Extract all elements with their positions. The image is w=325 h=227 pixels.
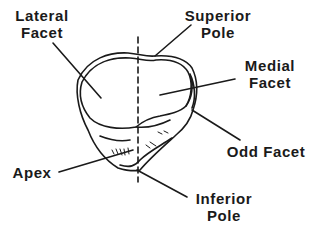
- label-lateral-facet: Lateral Facet: [6, 7, 78, 41]
- label-odd-facet: Odd Facet: [211, 143, 321, 160]
- label-lateral-facet-line2: Facet: [6, 24, 78, 41]
- label-medial-facet-line1: Medial: [236, 57, 304, 74]
- label-apex-line1: Apex: [6, 164, 58, 181]
- label-apex: Apex: [6, 164, 58, 181]
- apex-hatching: [112, 131, 168, 155]
- leader-inferior-pole: [137, 170, 187, 197]
- label-lateral-facet-line1: Lateral: [6, 7, 78, 24]
- label-inferior-pole-line1: Inferior: [184, 190, 264, 207]
- label-medial-facet-line2: Facet: [236, 74, 304, 91]
- label-inferior-pole-line2: Pole: [184, 207, 264, 224]
- label-superior-pole-line2: Pole: [178, 24, 258, 41]
- leader-odd-facet: [192, 110, 240, 140]
- label-inferior-pole: Inferior Pole: [184, 190, 264, 224]
- label-superior-pole-line1: Superior: [178, 7, 258, 24]
- patella-outer-outline: [77, 53, 197, 171]
- label-odd-facet-line1: Odd Facet: [211, 143, 321, 160]
- label-medial-facet: Medial Facet: [236, 57, 304, 91]
- leader-medial-facet: [160, 79, 235, 95]
- label-superior-pole: Superior Pole: [178, 7, 258, 41]
